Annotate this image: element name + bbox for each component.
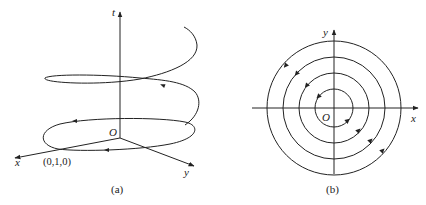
x-axis-label-a: x [14,156,20,168]
origin-label-a: O [109,126,117,138]
helix-upper-loop [45,27,197,83]
figure-b [252,30,418,175]
start-point-label: (0,1,0) [43,156,71,168]
direction-arrow-icon [159,82,165,87]
y-axis-label-a: y [183,166,189,178]
t-axis-label: t [112,6,116,18]
origin-label-b: O [322,111,330,123]
caption-b: (b) [326,183,339,196]
x-axis-label-b: x [410,112,416,124]
direction-arrow-icon [104,148,109,152]
figure-a [15,12,199,166]
direction-arrow-icon [379,147,386,154]
x-axis [15,138,120,158]
y-axis-label-b: y [322,26,328,38]
helix-lower-loop [43,118,195,150]
caption-a: (a) [111,183,124,196]
y-axis [120,138,194,166]
helix-rising-segment [140,78,199,125]
diagram-canvas: t x y O (0,1,0) (a) y x O (b) [0,0,426,205]
direction-arrow-icon [282,62,289,69]
direction-arrow-icon [72,119,77,123]
